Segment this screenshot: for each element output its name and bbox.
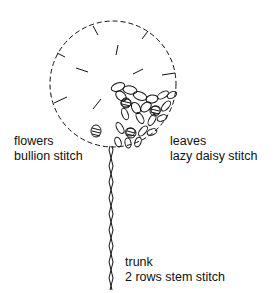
trunk-stitch: 2 rows stem stitch — [125, 270, 225, 285]
leaves-stitch: lazy daisy stitch — [170, 149, 258, 164]
trunk-title: trunk — [125, 255, 225, 270]
trunk-label: trunk 2 rows stem stitch — [125, 255, 225, 285]
flowers-title: flowers — [14, 134, 83, 149]
flowers-stitch: bullion stitch — [14, 149, 83, 164]
canopy-outline — [50, 21, 176, 147]
leaves-title: leaves — [170, 134, 258, 149]
embroidery-tree-diagram: flowers bullion stitch leaves lazy daisy… — [0, 0, 277, 293]
leaves-label: leaves lazy daisy stitch — [170, 134, 258, 164]
flowers-label: flowers bullion stitch — [14, 134, 83, 164]
